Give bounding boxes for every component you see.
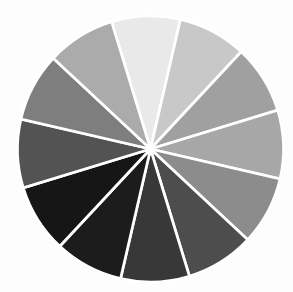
grayscale-value-wheel-image (0, 0, 293, 292)
center-hub (147, 146, 154, 153)
value-wheel-chart (0, 0, 293, 292)
pie-slice-group (17, 16, 283, 282)
